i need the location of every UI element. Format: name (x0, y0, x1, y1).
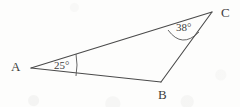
angle-label-a: 25° (54, 60, 69, 71)
vertex-label-a: A (11, 60, 21, 73)
angle-label-c: 38° (176, 22, 191, 33)
vertex-label-c: C (221, 6, 230, 19)
side-ab (31, 68, 161, 82)
geometry-figure: A B C 25° 38° (0, 0, 240, 107)
angle-arc-a (76, 54, 77, 76)
triangle-diagram-svg (0, 0, 240, 107)
vertex-label-b: B (158, 88, 167, 101)
